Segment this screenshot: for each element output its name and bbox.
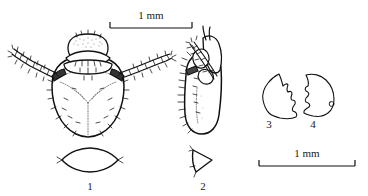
figure-3-caption: 3 <box>266 118 272 130</box>
figure-2-caption: 2 <box>200 180 206 192</box>
figure-1-caption: 1 <box>87 180 93 192</box>
scale-bar-top-label: 1 mm <box>138 9 164 21</box>
figure-4-caption: 4 <box>310 118 316 130</box>
scale-bar-bottom-label: 1 mm <box>294 147 320 159</box>
illustration-plate: 1 mm <box>0 0 368 196</box>
figure-2-appendage-tip-2 <box>209 27 210 40</box>
